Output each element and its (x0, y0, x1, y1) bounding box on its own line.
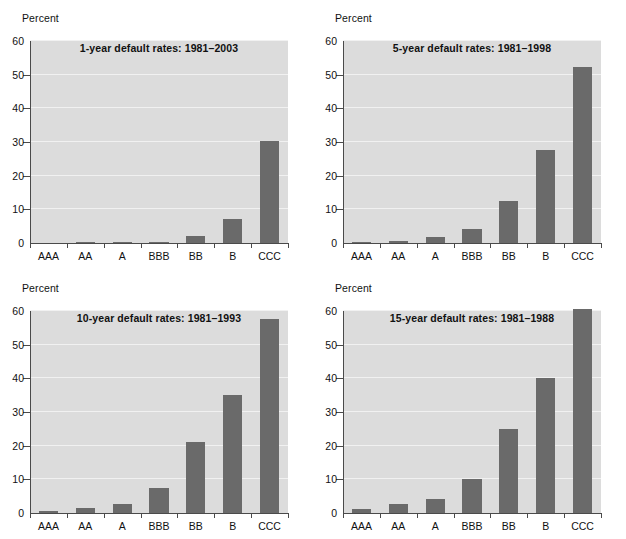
x-axis-tick (67, 243, 68, 248)
x-axis-tick-label: A (432, 250, 439, 262)
x-axis-tick-label: BB (189, 520, 203, 532)
y-axis-tick-label: 10 (313, 473, 337, 485)
y-axis-tick-label: 40 (0, 102, 24, 114)
y-axis-tick (23, 142, 30, 143)
x-axis-tick (527, 513, 528, 518)
x-axis-tick-label: B (229, 250, 236, 262)
y-axis-line (343, 311, 344, 514)
x-axis-tick (30, 513, 31, 518)
x-axis-line (343, 243, 602, 244)
y-axis-tick-label: 40 (0, 372, 24, 384)
chart-panel-15-year: Percent 15-year default rates: 1981–1988… (313, 270, 626, 539)
y-axis-tick (336, 209, 343, 210)
x-axis-tick-label: CCC (258, 520, 281, 532)
x-axis-tick (343, 513, 344, 518)
x-axis-tick (104, 243, 105, 248)
x-axis-tick (104, 513, 105, 518)
bar (536, 150, 555, 243)
y-axis-tick-label: 50 (313, 339, 337, 351)
chart-panel-1-year: Percent 1-year default rates: 1981–2003 … (0, 0, 313, 269)
y-axis-tick (336, 176, 343, 177)
y-axis-line (343, 41, 344, 244)
default-rates-figure: Percent 1-year default rates: 1981–2003 … (0, 0, 626, 539)
y-axis-tick (336, 75, 343, 76)
y-axis-tick-label: 30 (313, 136, 337, 148)
y-axis-tick (336, 345, 343, 346)
y-axis-tick-label: 50 (0, 69, 24, 81)
x-axis-tick (67, 513, 68, 518)
x-axis-tick-label: A (432, 520, 439, 532)
x-axis-tick (454, 513, 455, 518)
y-axis-tick (336, 108, 343, 109)
x-axis-tick-label: B (229, 520, 236, 532)
bar (573, 309, 592, 513)
x-axis-tick (490, 243, 491, 248)
bar (260, 319, 279, 513)
y-axis-line (30, 311, 31, 514)
x-axis-tick (141, 243, 142, 248)
y-axis-tick-label: 30 (0, 406, 24, 418)
x-axis-tick (601, 513, 602, 518)
x-axis-tick-label: CCC (571, 250, 594, 262)
x-axis-tick-label: BBB (148, 250, 169, 262)
y-axis-title: Percent (22, 282, 59, 294)
y-axis-tick-label: 60 (313, 305, 337, 317)
y-axis-title: Percent (335, 282, 372, 294)
x-axis-tick-label: BB (189, 250, 203, 262)
bar-series (30, 41, 288, 243)
x-axis-tick-label: BB (502, 520, 516, 532)
y-axis-tick (23, 479, 30, 480)
x-axis-tick-label: AAA (38, 250, 59, 262)
y-axis-tick (23, 446, 30, 447)
bar (573, 67, 592, 243)
x-axis-tick (30, 243, 31, 248)
x-axis-tick (251, 243, 252, 248)
y-axis-tick-label: 60 (0, 35, 24, 47)
x-axis-tick-label: AAA (38, 520, 59, 532)
y-axis-tick-label: 0 (313, 237, 337, 249)
x-axis-tick (288, 513, 289, 518)
y-axis-tick-label: 10 (0, 203, 24, 215)
y-axis-tick (23, 209, 30, 210)
bar (389, 504, 408, 513)
x-axis-tick-label: BBB (461, 250, 482, 262)
x-axis-line (30, 513, 289, 514)
y-axis-tick-label: 20 (313, 440, 337, 452)
x-axis-tick (601, 243, 602, 248)
y-axis-tick (23, 345, 30, 346)
x-axis-line (30, 243, 289, 244)
y-axis-tick (23, 412, 30, 413)
y-axis-tick-label: 0 (0, 237, 24, 249)
bar (223, 395, 242, 514)
y-axis-title: Percent (335, 12, 372, 24)
x-axis-tick (454, 243, 455, 248)
bar (462, 229, 481, 243)
bar (499, 429, 518, 514)
x-axis-tick-label: BBB (461, 520, 482, 532)
x-axis-tick-label: CCC (258, 250, 281, 262)
y-axis-line (30, 41, 31, 244)
x-axis-tick-label: BB (502, 250, 516, 262)
y-axis-tick-label: 50 (313, 69, 337, 81)
chart-panel-5-year: Percent 5-year default rates: 1981–1998 … (313, 0, 626, 269)
chart-panel-10-year: Percent 10-year default rates: 1981–1993… (0, 270, 313, 539)
y-axis-tick (23, 108, 30, 109)
x-axis-tick (251, 513, 252, 518)
x-axis-tick (214, 243, 215, 248)
y-axis-title: Percent (22, 12, 59, 24)
x-axis-tick-label: A (119, 250, 126, 262)
y-axis-tick-label: 60 (0, 305, 24, 317)
bar (149, 488, 168, 513)
x-axis-tick (380, 243, 381, 248)
x-axis-tick-label: AAA (351, 250, 372, 262)
x-axis-tick-label: CCC (571, 520, 594, 532)
bar (186, 236, 205, 243)
y-axis-tick-label: 10 (0, 473, 24, 485)
y-axis-tick-label: 20 (313, 170, 337, 182)
y-axis-tick-label: 20 (0, 170, 24, 182)
bar (536, 378, 555, 513)
x-axis-tick-label: AA (391, 250, 405, 262)
x-axis-tick (288, 243, 289, 248)
bar (499, 201, 518, 243)
y-axis-tick-label: 0 (0, 507, 24, 519)
